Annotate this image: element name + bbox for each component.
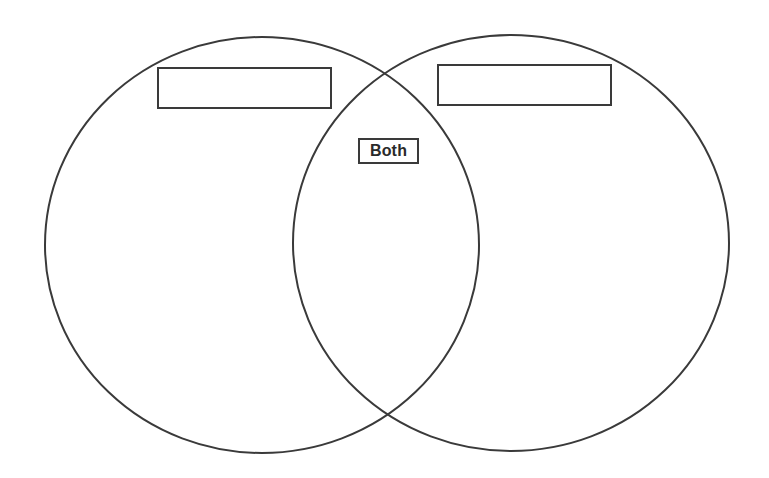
venn-diagram bbox=[0, 0, 769, 478]
right-set-label-box[interactable] bbox=[437, 64, 612, 106]
intersection-label: Both bbox=[370, 142, 407, 160]
intersection-label-box: Both bbox=[358, 138, 419, 164]
left-set-label-box[interactable] bbox=[157, 67, 332, 109]
